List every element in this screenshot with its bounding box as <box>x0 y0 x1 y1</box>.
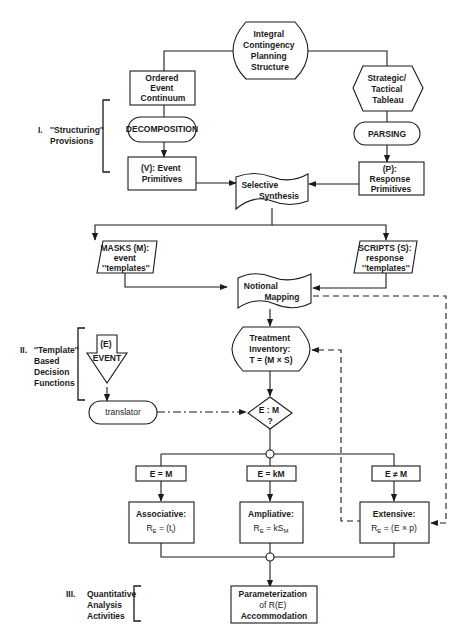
translator-label: translator <box>105 407 141 417</box>
section-template-based-decision-functions: II. ''Template'' Based Decision Function… <box>20 328 85 400</box>
section2-line-3: Decision <box>34 367 69 377</box>
node-parsing[interactable]: PARSING <box>354 122 420 145</box>
contingency-planning-flowchart: Integral Contingency Planning Structure … <box>0 0 461 644</box>
selective-line-1: Selective <box>241 180 278 190</box>
ampliative-title: Ampliative: <box>248 509 294 519</box>
ordered-line-1: Ordered <box>145 73 178 83</box>
section2-line-4: Functions <box>34 378 75 388</box>
event-input-line-2: EVENT <box>93 353 122 363</box>
section1-line-2: Provisions <box>50 136 94 146</box>
node-masks[interactable]: MASKS (M): event ''templates'' <box>97 241 157 273</box>
node-strategic-tactical-tableau[interactable]: Strategic/ Tactical Tableau <box>353 66 423 111</box>
node-extensive[interactable]: Extensive: RE = (E × p) <box>360 502 429 543</box>
strategic-line-2: Tactical <box>371 84 402 94</box>
ordered-line-2: Event <box>150 83 173 93</box>
decomposition-label: DECOMPOSITION <box>126 124 198 134</box>
node-treatment-inventory[interactable]: Treatment Inventory: T = (M × S) <box>232 327 310 371</box>
node-integral-contingency-planning-structure[interactable]: Integral Contingency Planning Structure <box>233 22 308 79</box>
decision-line-1: E : M <box>259 405 279 415</box>
treatment-line-2: Inventory: <box>249 344 290 354</box>
node-ampliative[interactable]: Ampliative: RE = kSM <box>240 502 303 543</box>
junction-lower <box>266 553 274 561</box>
node-parameterization[interactable]: Parameterization of R(E) Accommodation <box>231 586 317 623</box>
node-condition-e-not-equal-m[interactable]: E ≠ M <box>372 466 420 481</box>
section-quantitative-analysis-activities: III. Quantitative Analysis Activities <box>66 586 141 621</box>
root-line-2: Contingency <box>243 40 295 50</box>
svg-text:SCRIPTS (S): response: SCRIPTS (S): response ''templates'' <box>358 243 414 273</box>
ordered-line-3: Continuum <box>141 93 186 103</box>
svg-text:(V): Event Primitives: (V): Event Primitives <box>141 163 183 184</box>
strategic-line-1: Strategic/ <box>367 73 406 83</box>
svg-text:Strategic/ Tactical: Strategic/ Tactical Tableau <box>367 73 408 105</box>
section1-numeral: I. <box>38 125 43 135</box>
treatment-line-1: Treatment <box>250 333 291 343</box>
associative-formula: RE = (ti) <box>146 523 175 534</box>
node-condition-e-equals-km[interactable]: E = kM <box>247 466 296 481</box>
param-line-2: of R(E) <box>259 600 286 610</box>
masks-line-2: event <box>114 253 136 263</box>
node-ordered-event-continuum[interactable]: Ordered Event Continuum <box>130 71 195 105</box>
svg-text:Treatment Inventory:: Treatment Inventory: T = (M × S) <box>249 333 292 365</box>
section2-line-2: Based <box>34 356 60 366</box>
node-event-primitives[interactable]: (V): Event Primitives <box>128 157 196 190</box>
section3-line-1: Quantitative <box>87 589 136 599</box>
associative-title: Associative: <box>136 509 186 519</box>
root-line-3: Planning <box>251 51 287 61</box>
ampliative-formula: RE = kSM <box>254 523 289 534</box>
node-translator[interactable]: translator <box>89 401 157 424</box>
section-structuring-provisions: I. ''Structuring'' Provisions <box>38 100 110 172</box>
node-condition-e-equals-m[interactable]: E = M <box>136 466 186 481</box>
cond-equal-label: E = M <box>150 469 172 479</box>
scripts-line-3: ''templates'' <box>362 263 410 273</box>
treatment-line-3: T = (M × S) <box>250 355 293 365</box>
response-primitives-line-2: Response <box>370 174 411 184</box>
parsing-label: PARSING <box>368 129 406 139</box>
scripts-line-2: response <box>366 253 404 263</box>
event-primitives-line-2: Primitives <box>142 174 183 184</box>
root-line-1: Integral <box>253 29 284 39</box>
node-decomposition[interactable]: DECOMPOSITION <box>126 117 198 142</box>
root-line-4: Structure <box>251 62 289 72</box>
section3-numeral: III. <box>66 589 75 599</box>
node-response-primitives[interactable]: (P): Response Primitives <box>359 162 424 195</box>
junction-upper <box>266 450 274 458</box>
scripts-line-1: SCRIPTS (S): <box>358 243 412 253</box>
selective-line-2: Synthesis <box>259 191 299 201</box>
section3-line-3: Activities <box>87 611 125 621</box>
node-associative[interactable]: Associative: RE = (ti) <box>129 502 194 543</box>
event-input-line-1: (E) <box>100 339 112 349</box>
node-decision-e-m[interactable]: E : M ? <box>248 397 292 429</box>
response-primitives-line-1: (P): <box>383 164 397 174</box>
node-notional-mapping[interactable]: Notional Mapping <box>238 274 311 308</box>
section1-bracket <box>103 100 110 172</box>
section2-bracket <box>78 328 85 400</box>
node-event-input[interactable]: (E) EVENT <box>87 335 127 383</box>
section2-line-1: ''Template'' <box>34 345 79 355</box>
strategic-line-3: Tableau <box>372 95 404 105</box>
response-primitives-line-3: Primitives <box>371 184 412 194</box>
node-selective-synthesis[interactable]: Selective Synthesis <box>236 174 308 210</box>
cond-not-equal-label: E ≠ M <box>385 469 407 479</box>
notional-line-2: Mapping <box>265 292 300 302</box>
param-line-1: Parameterization <box>239 589 308 599</box>
decision-line-2: ? <box>267 416 272 426</box>
param-line-3: Accommodation <box>241 611 308 621</box>
section1-line-1: ''Structuring'' <box>50 125 104 135</box>
notional-line-1: Notional <box>244 281 278 291</box>
masks-line-3: ''templates'' <box>102 263 150 273</box>
event-primitives-line-1: (V): Event <box>141 163 181 173</box>
section2-numeral: II. <box>20 345 27 355</box>
node-scripts[interactable]: SCRIPTS (S): response ''templates'' <box>354 241 417 273</box>
section3-line-2: Analysis <box>87 600 122 610</box>
cond-km-label: E = kM <box>257 469 284 479</box>
extensive-title: Extensive: <box>373 509 416 519</box>
masks-line-1: MASKS (M): <box>100 243 149 253</box>
